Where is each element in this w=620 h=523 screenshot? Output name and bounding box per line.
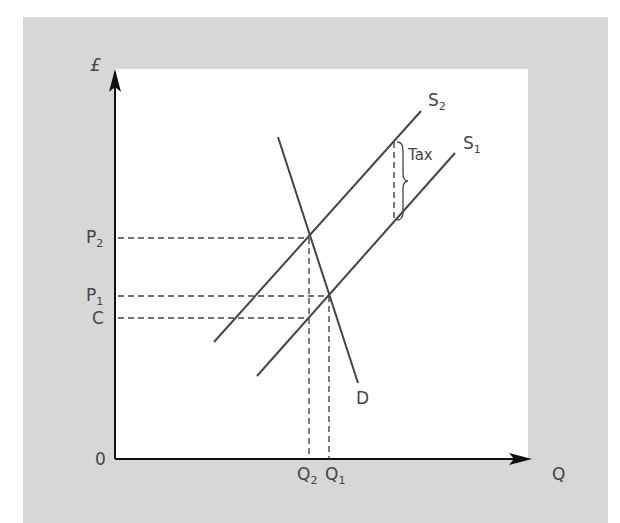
- x-axis-label: Q: [552, 466, 565, 483]
- s2-sub: 2: [439, 100, 446, 113]
- demand-curve: [278, 137, 358, 383]
- s1-label: S1: [463, 135, 481, 155]
- s1-sub: 1: [474, 143, 481, 156]
- q1-label: Q1: [325, 466, 345, 486]
- q1-sub: 1: [338, 474, 345, 487]
- q2-sub: 2: [310, 474, 317, 487]
- demand-label: D: [356, 390, 369, 407]
- s2-label: S2: [428, 92, 446, 112]
- q1-main: Q: [325, 464, 338, 484]
- q2-main: Q: [297, 464, 310, 484]
- c-label: C: [92, 310, 104, 327]
- p2-main: P: [86, 227, 96, 247]
- p1-main: P: [86, 285, 96, 305]
- p2-label: P2: [86, 229, 103, 249]
- y-axis-label: £: [90, 57, 101, 74]
- p1-label: P1: [86, 287, 103, 307]
- supply-curve-s1: [257, 153, 455, 376]
- q2-label: Q2: [297, 466, 317, 486]
- p1-sub: 1: [96, 295, 103, 308]
- p2-sub: 2: [96, 237, 103, 250]
- tax-label: Tax: [408, 148, 433, 163]
- origin-label: 0: [95, 451, 106, 468]
- supply-demand-tax-diagram: [0, 0, 620, 523]
- s1-main: S: [463, 133, 474, 153]
- s2-main: S: [428, 90, 439, 110]
